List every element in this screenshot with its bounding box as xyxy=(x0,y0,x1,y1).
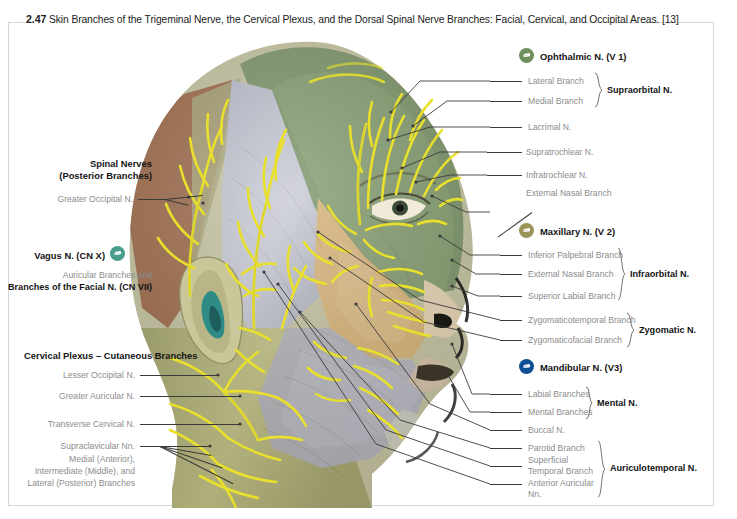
label-transverse-cervical-n: Transverse Cervical N. xyxy=(0,419,135,430)
label-inferior-palpebral-branch: Inferior Palpebral Branch xyxy=(528,250,623,261)
label-mental-n: Mental N. xyxy=(597,398,637,409)
anatomical-illustration xyxy=(72,28,542,508)
figure-number: 2.47 xyxy=(26,13,46,25)
leader-greater-auricular xyxy=(140,396,240,397)
head-illustration-svg xyxy=(72,28,542,508)
frame-border-left xyxy=(8,22,9,506)
label-infraorbital-n: Infraorbital N. xyxy=(630,269,689,280)
vagus-icon xyxy=(110,246,125,261)
mandibular-icon xyxy=(519,359,534,374)
leader-labial-branches xyxy=(490,394,522,395)
brace-zygomatic xyxy=(626,312,635,348)
label-ophthalmic-n: Ophthalmic N. (V 1) xyxy=(540,51,626,62)
frame-border-top-left xyxy=(8,22,26,23)
figure-caption: 2.47 Skin Branches of the Trigeminal Ner… xyxy=(26,13,679,25)
leader-anterior-auricular xyxy=(490,484,522,485)
leader-buccal xyxy=(490,430,522,431)
leader-greater-occipital xyxy=(138,199,166,200)
leader-supraclavicular-main xyxy=(140,446,210,447)
label-parotid-branch: Parotid Branch xyxy=(528,443,585,454)
cervical-plexus-header: Cervical Plexus – Cutaneous Branches xyxy=(24,350,198,361)
leader-lateral-branch xyxy=(490,81,522,82)
label-vagus-n: Vagus N. (CN X) xyxy=(0,250,105,261)
label-supraclavicular-sub3: Lateral (Posterior) Branches xyxy=(0,478,135,489)
leader-lacrimal xyxy=(490,127,522,128)
label-superficial: Superficial xyxy=(528,455,568,466)
label-lateral-branch: Lateral Branch xyxy=(528,76,584,87)
ophthalmic-icon xyxy=(519,48,534,63)
label-supraorbital-n: Supraorbital N. xyxy=(607,85,672,96)
leader-supratrochlear xyxy=(487,152,522,153)
label-lacrimal-n: Lacrimal N. xyxy=(528,122,571,133)
label-labial-branches: Labial Branches xyxy=(528,389,590,400)
maxillary-icon xyxy=(519,223,534,238)
label-supraclavicular-sub2: Intermediate (Middle), and xyxy=(0,466,135,477)
label-supraclavicular-sub1: Medial (Anterior), xyxy=(0,454,135,465)
leader-superficial-temporal xyxy=(490,466,522,467)
label-buccal-n: Buccal N. xyxy=(528,425,565,436)
brace-infraorbital xyxy=(617,247,626,301)
leader-transverse-cervical xyxy=(140,424,240,425)
label-zygomatic-n: Zygomatic N. xyxy=(639,325,696,336)
leader-external-nasal-2 xyxy=(500,274,522,275)
brace-supraorbital xyxy=(594,72,603,108)
spinal-nerves-header-line2: (Posterior Branches) xyxy=(0,170,152,181)
label-anterior-auricular-nn: Nn. xyxy=(528,489,541,500)
label-external-nasal-branch-1: External Nasal Branch xyxy=(526,188,612,199)
label-mandibular-n: Mandibular N. (V3) xyxy=(540,362,622,373)
label-supraclavicular-nn: Supraclavicular Nn. xyxy=(0,441,135,452)
label-lesser-occipital-n: Lesser Occipital N. xyxy=(0,370,135,381)
label-maxillary-n: Maxillary N. (V 2) xyxy=(540,226,615,237)
leader-zygomaticofacial xyxy=(500,340,522,341)
leader-parotid-branch xyxy=(490,448,522,449)
brace-mental xyxy=(585,386,593,420)
leader-superior-labial xyxy=(500,296,522,297)
spinal-nerves-header-line1: Spinal Nerves xyxy=(0,158,152,169)
label-zygomaticofacial-branch: Zygomaticofacial Branch xyxy=(528,335,622,346)
label-superior-labial-branch: Superior Labial Branch xyxy=(528,291,615,302)
brace-auriculotemporal xyxy=(597,440,606,498)
head-color-zones xyxy=(72,28,542,508)
label-greater-occipital-n: Greater Occipital N. xyxy=(0,194,133,205)
label-external-nasal-branch-2: External Nasal Branch xyxy=(528,269,614,280)
label-anterior-auricular: Anterior Auricular xyxy=(528,478,594,489)
label-auricular-branches: Auricular Branches and xyxy=(0,270,152,281)
leader-inferior-palpebral xyxy=(500,255,522,256)
frame-border-right xyxy=(713,22,714,506)
leader-medial-branch xyxy=(490,101,522,102)
leader-zygomaticotemporal xyxy=(500,320,522,321)
label-mental-branches: Mental Branches xyxy=(528,407,593,418)
label-zygomaticotemporal-branch: Zygomaticotemporal Branch xyxy=(528,315,635,326)
label-medial-branch: Medial Branch xyxy=(528,96,583,107)
figure-page: 2.47 Skin Branches of the Trigeminal Ner… xyxy=(0,0,737,519)
leader-infratrochlear xyxy=(487,175,522,176)
label-facial-n-branches: Branches of the Facial N. (CN VII) xyxy=(0,282,152,293)
label-infratrochlear-n: Infratrochlear N. xyxy=(526,170,588,181)
leader-mental-branches xyxy=(490,412,522,413)
label-temporal-branch: Temporal Branch xyxy=(528,466,593,477)
label-auriculotemporal-n: Auriculotemporal N. xyxy=(610,463,697,474)
label-greater-auricular-n: Greater Auricular N. xyxy=(0,391,135,402)
label-supratrochlear-n: Supratrochlear N. xyxy=(526,147,593,158)
leader-lesser-occipital xyxy=(140,375,218,376)
figure-caption-text: Skin Branches of the Trigeminal Nerve, t… xyxy=(49,14,679,25)
